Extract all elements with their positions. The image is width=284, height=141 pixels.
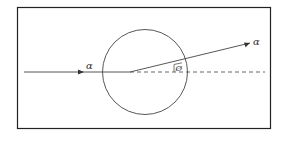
incoming-arrow-icon	[78, 70, 84, 75]
outgoing-arrow-icon	[244, 43, 250, 48]
angle-phi-label: Ø	[175, 64, 183, 73]
outgoing-path	[130, 43, 250, 72]
incoming-alpha-label: α	[86, 60, 93, 71]
outgoing-alpha-label: α	[253, 36, 260, 47]
frame-border	[18, 8, 271, 129]
scattering-diagram: α α Ø	[0, 0, 284, 141]
